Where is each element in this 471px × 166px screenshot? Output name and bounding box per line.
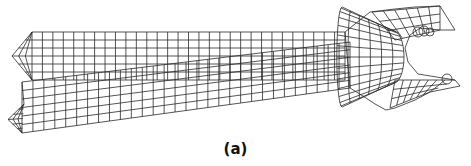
figure-caption: (a) [0, 140, 471, 158]
jaw-head-mesh [337, 6, 460, 110]
mesh-figure [0, 0, 471, 140]
